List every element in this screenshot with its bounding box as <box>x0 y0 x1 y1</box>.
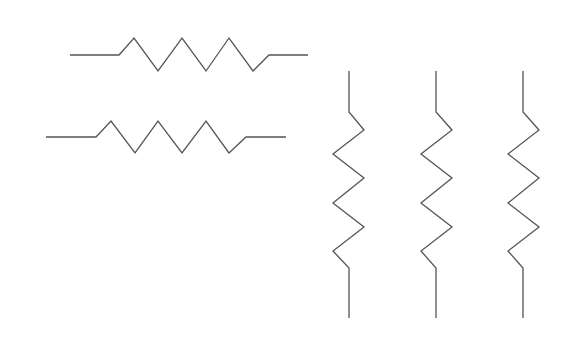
resistor-symbol-vertical-2 <box>421 71 452 318</box>
resistor-diagram <box>0 0 570 342</box>
resistor-symbol-horizontal-1 <box>70 38 308 71</box>
resistor-symbol-vertical-3 <box>508 71 539 318</box>
resistor-symbol-horizontal-2 <box>46 121 286 153</box>
resistor-symbol-vertical-1 <box>333 71 364 318</box>
